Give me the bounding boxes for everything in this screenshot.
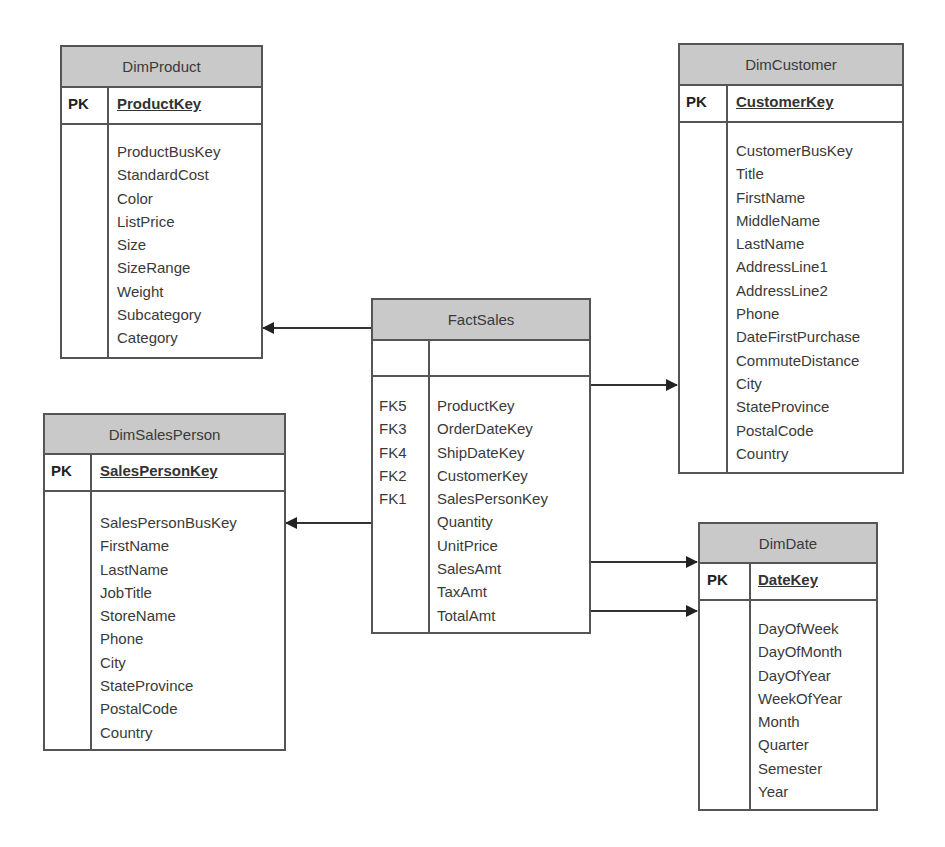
field: PostalCode bbox=[100, 697, 237, 720]
column-divider bbox=[749, 562, 751, 809]
column-divider bbox=[107, 86, 109, 357]
field: Month bbox=[758, 710, 842, 733]
field-list: CustomerBusKey Title FirstName MiddleNam… bbox=[736, 139, 860, 465]
field: Country bbox=[100, 721, 237, 744]
field: City bbox=[100, 651, 237, 674]
entity-dimdate: DimDate PK DateKey DayOfWeek DayOfMonth … bbox=[698, 522, 878, 811]
field: Year bbox=[758, 780, 842, 803]
fk-label: FK2 bbox=[379, 464, 407, 487]
field: CustomerBusKey bbox=[736, 139, 860, 162]
fk-label: FK3 bbox=[379, 417, 407, 440]
field: Category bbox=[117, 326, 220, 349]
field: SizeRange bbox=[117, 256, 220, 279]
field: SalesAmt bbox=[437, 557, 548, 580]
entity-factsales: FactSales FK5 FK3 FK4 FK2 FK1 ProductKey… bbox=[371, 298, 591, 634]
field: CommuteDistance bbox=[736, 349, 860, 372]
field-list: ProductBusKey StandardCost Color ListPri… bbox=[117, 140, 220, 350]
field: City bbox=[736, 372, 860, 395]
field: Title bbox=[736, 162, 860, 185]
field: Weight bbox=[117, 280, 220, 303]
column-divider bbox=[90, 453, 92, 749]
field: Size bbox=[117, 233, 220, 256]
field: FirstName bbox=[100, 534, 237, 557]
pk-label: PK bbox=[51, 462, 72, 479]
field: StandardCost bbox=[117, 163, 220, 186]
field: Semester bbox=[758, 757, 842, 780]
field: DateFirstPurchase bbox=[736, 325, 860, 348]
column-divider bbox=[726, 84, 728, 472]
field: AddressLine2 bbox=[736, 279, 860, 302]
fk-label: FK1 bbox=[379, 487, 407, 510]
entity-dimcustomer: DimCustomer PK CustomerKey CustomerBusKe… bbox=[678, 43, 904, 474]
fk-label: FK4 bbox=[379, 441, 407, 464]
field: StateProvince bbox=[100, 674, 237, 697]
field: SalesPersonKey bbox=[437, 487, 548, 510]
field: Quarter bbox=[758, 733, 842, 756]
field: MiddleName bbox=[736, 209, 860, 232]
entity-title: FactSales bbox=[373, 300, 589, 341]
field: ShipDateKey bbox=[437, 441, 548, 464]
field: Phone bbox=[736, 302, 860, 325]
entity-dimproduct: DimProduct PK ProductKey ProductBusKey S… bbox=[60, 45, 263, 359]
entity-title: DimProduct bbox=[62, 47, 261, 88]
entity-dimsalesperson: DimSalesPerson PK SalesPersonKey SalesPe… bbox=[43, 413, 286, 751]
pk-field: SalesPersonKey bbox=[100, 462, 218, 479]
fk-label: FK5 bbox=[379, 394, 407, 417]
pk-label: PK bbox=[686, 93, 707, 110]
pk-field: DateKey bbox=[758, 571, 818, 588]
field-list: ProductKey OrderDateKey ShipDateKey Cust… bbox=[437, 394, 548, 627]
pk-label: PK bbox=[707, 571, 728, 588]
column-divider bbox=[428, 339, 430, 632]
entity-title: DimSalesPerson bbox=[45, 415, 284, 455]
field: TotalAmt bbox=[437, 604, 548, 627]
field: StoreName bbox=[100, 604, 237, 627]
field: PostalCode bbox=[736, 419, 860, 442]
field: ProductKey bbox=[437, 394, 548, 417]
field: CustomerKey bbox=[437, 464, 548, 487]
pk-row bbox=[373, 339, 589, 377]
field: TaxAmt bbox=[437, 580, 548, 603]
field: DayOfYear bbox=[758, 664, 842, 687]
fk-list: FK5 FK3 FK4 FK2 FK1 bbox=[379, 394, 407, 510]
pk-label: PK bbox=[68, 95, 89, 112]
field: OrderDateKey bbox=[437, 417, 548, 440]
field: Phone bbox=[100, 627, 237, 650]
field-list: DayOfWeek DayOfMonth DayOfYear WeekOfYea… bbox=[758, 617, 842, 803]
pk-field: ProductKey bbox=[117, 95, 201, 112]
entity-title: DimDate bbox=[700, 524, 876, 564]
field: ProductBusKey bbox=[117, 140, 220, 163]
field: Color bbox=[117, 187, 220, 210]
field-list: SalesPersonBusKey FirstName LastName Job… bbox=[100, 511, 237, 744]
field: DayOfWeek bbox=[758, 617, 842, 640]
field: FirstName bbox=[736, 186, 860, 209]
field: AddressLine1 bbox=[736, 255, 860, 278]
field: JobTitle bbox=[100, 581, 237, 604]
field: Subcategory bbox=[117, 303, 220, 326]
field: WeekOfYear bbox=[758, 687, 842, 710]
field: Quantity bbox=[437, 510, 548, 533]
field: SalesPersonBusKey bbox=[100, 511, 237, 534]
field: LastName bbox=[736, 232, 860, 255]
pk-field: CustomerKey bbox=[736, 93, 834, 110]
entity-title: DimCustomer bbox=[680, 45, 902, 86]
field: ListPrice bbox=[117, 210, 220, 233]
field: StateProvince bbox=[736, 395, 860, 418]
field: Country bbox=[736, 442, 860, 465]
field: DayOfMonth bbox=[758, 640, 842, 663]
field: LastName bbox=[100, 558, 237, 581]
field: UnitPrice bbox=[437, 534, 548, 557]
